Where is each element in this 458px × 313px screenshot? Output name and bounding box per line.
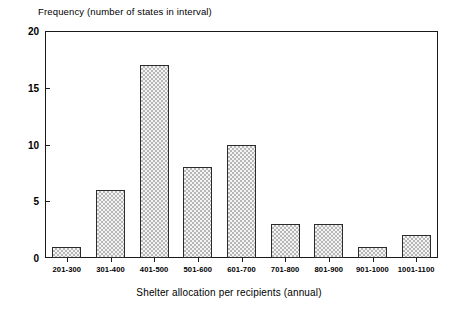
histogram-bar — [402, 235, 431, 258]
y-tick-mark — [45, 201, 50, 202]
x-tick-mark — [111, 258, 112, 262]
histogram-bar — [358, 247, 387, 258]
x-tick-mark — [329, 258, 330, 262]
x-tick-mark — [416, 258, 417, 262]
y-tick-label: 10 — [28, 139, 39, 150]
x-axis-title: Shelter allocation per recipients (annua… — [0, 287, 458, 298]
x-tick-mark — [154, 258, 155, 262]
histogram-bar — [96, 190, 125, 258]
y-tick-label: 15 — [28, 82, 39, 93]
histogram-figure: Frequency (number of states in interval)… — [0, 0, 458, 313]
bars-container — [45, 31, 438, 258]
histogram-bar — [271, 224, 300, 258]
x-tick-label: 701-800 — [271, 265, 300, 274]
histogram-bar — [183, 167, 212, 258]
x-tick-mark — [67, 258, 68, 262]
x-tick-mark — [198, 258, 199, 262]
x-axis-tick-labels: 201-300301-400401-500501-600601-700701-8… — [45, 265, 438, 279]
histogram-bar — [52, 247, 81, 258]
x-tick-mark — [242, 258, 243, 262]
histogram-bar — [227, 145, 256, 259]
x-tick-label: 1001-1100 — [398, 265, 435, 274]
x-tick-label: 501-600 — [184, 265, 213, 274]
y-axis-title: Frequency (number of states in interval) — [38, 6, 212, 17]
histogram-bar — [140, 65, 169, 258]
y-tick-label: 20 — [28, 26, 39, 37]
x-tick-label: 201-300 — [53, 265, 82, 274]
y-tick-mark — [45, 145, 50, 146]
x-tick-label: 801-900 — [315, 265, 344, 274]
x-tick-mark — [285, 258, 286, 262]
histogram-bar — [314, 224, 343, 258]
x-tick-label: 901-1000 — [356, 265, 389, 274]
y-tick-mark — [45, 88, 50, 89]
x-tick-label: 401-500 — [140, 265, 169, 274]
y-axis-tick-labels: 05101520 — [18, 31, 39, 258]
x-tick-mark — [373, 258, 374, 262]
y-tick-label: 5 — [33, 196, 39, 207]
x-tick-label: 301-400 — [96, 265, 125, 274]
x-tick-label: 601-700 — [227, 265, 256, 274]
y-tick-label: 0 — [33, 253, 39, 264]
